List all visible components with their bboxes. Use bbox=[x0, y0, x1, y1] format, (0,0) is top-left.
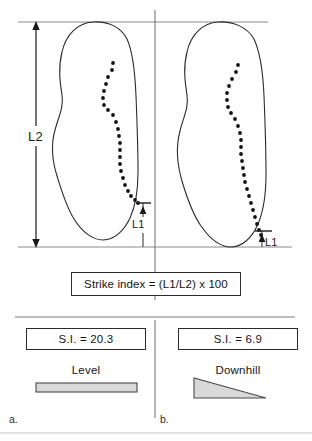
panel-letter-b: b. bbox=[160, 413, 169, 425]
si-value-label-left: S.I. = 20.3 bbox=[59, 333, 114, 345]
condition-label-downhill: Downhill bbox=[178, 364, 298, 376]
strike-index-formula-box: Strike index = (L1/L2) x 100 bbox=[71, 272, 241, 296]
right-foot-outline bbox=[178, 22, 266, 247]
l1-dimension-label-left: L1 bbox=[132, 219, 145, 230]
right-foot-pressure-path-dots bbox=[225, 63, 263, 237]
level-bar-icon bbox=[36, 383, 137, 392]
left-foot-pressure-path-dots bbox=[101, 61, 140, 205]
condition-label-level: Level bbox=[26, 364, 146, 376]
l1-dimension-label-right: L1 bbox=[265, 237, 278, 248]
l2-dimension-label: L2 bbox=[28, 130, 43, 143]
strike-index-figure: L2 L1 L1 Strike index = (L1/L2) x 100 S.… bbox=[0, 0, 312, 441]
panel-letter-a: a. bbox=[9, 413, 18, 425]
left-foot-outline bbox=[53, 22, 138, 240]
si-value-box-left: S.I. = 20.3 bbox=[26, 328, 146, 350]
si-value-label-right: S.I. = 6.9 bbox=[214, 333, 262, 345]
downhill-wedge-icon bbox=[194, 378, 266, 398]
si-value-box-right: S.I. = 6.9 bbox=[178, 328, 298, 350]
strike-index-formula-text: Strike index = (L1/L2) x 100 bbox=[84, 278, 228, 290]
